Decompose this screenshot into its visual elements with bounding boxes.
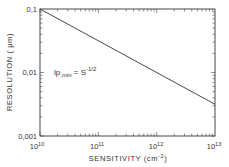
equation-annotation: lp,min = S-1/2: [54, 66, 97, 78]
y-tick-label: 0,1: [27, 5, 37, 14]
x-tick-label: 1013: [207, 141, 221, 151]
y-axis-title: RESOLUTION ( μm): [5, 33, 14, 111]
resolution-vs-sensitivity-chart: 0,1 0,01 0,001 1010 1011 1012 1013 SENSI…: [0, 0, 229, 167]
series-line: [40, 9, 215, 104]
x-axis-title: SENSITIVITY (cm-2): [89, 153, 168, 163]
x-tick-label: 1010: [30, 141, 44, 151]
x-tick-label: 1012: [149, 141, 163, 151]
y-tick-label: 0,001: [18, 132, 37, 141]
y-tick-label: 0,01: [22, 68, 37, 77]
x-tick-label: 1011: [90, 141, 104, 151]
